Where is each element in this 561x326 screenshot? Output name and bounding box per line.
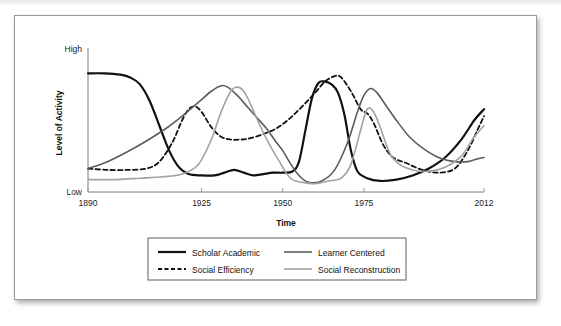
x-tick-label-1975: 1975 xyxy=(354,198,373,208)
x-axis-title: Time xyxy=(276,218,296,228)
x-tick-label-1950: 1950 xyxy=(273,198,292,208)
legend-label-learner-centered: Learner Centered xyxy=(318,248,385,258)
figure-card: HighLowLevel of Activity1890192519501975… xyxy=(14,15,537,300)
y-axis-title: Level of Activity xyxy=(54,90,64,155)
line-chart: HighLowLevel of Activity1890192519501975… xyxy=(15,16,538,301)
series-line-social-efficiency xyxy=(88,76,484,173)
legend-label-scholar-academic: Scholar Academic xyxy=(192,248,261,258)
page-top-band xyxy=(0,0,561,5)
series-line-scholar-academic xyxy=(88,73,484,181)
x-tick-label-1925: 1925 xyxy=(192,198,211,208)
x-tick-label-2012: 2012 xyxy=(475,198,494,208)
series-line-social-reconstruction xyxy=(88,87,484,184)
y-tick-label-high: High xyxy=(65,44,83,54)
x-tick-label-1890: 1890 xyxy=(79,198,98,208)
chart-plot-area: HighLowLevel of Activity1890192519501975… xyxy=(15,16,538,301)
y-tick-label-low: Low xyxy=(66,187,82,197)
legend-label-social-efficiency: Social Efficiency xyxy=(192,265,254,275)
legend-label-social-reconstruction: Social Reconstruction xyxy=(318,265,400,275)
